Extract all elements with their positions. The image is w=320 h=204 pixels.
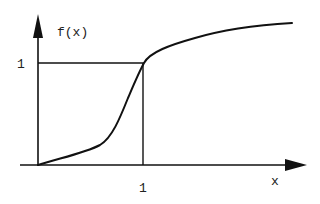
y-tick-label: 1	[17, 57, 25, 72]
y-axis-arrow-icon	[33, 14, 43, 38]
x-axis-arrow-icon	[285, 159, 307, 171]
x-axis-label: x	[271, 174, 279, 189]
x-tick-label: 1	[139, 181, 147, 196]
function-plot: f(x) 1 1 x	[0, 0, 320, 204]
function-curve	[38, 23, 292, 165]
y-axis-label: f(x)	[57, 25, 88, 40]
